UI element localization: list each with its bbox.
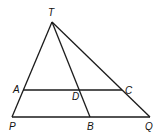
point-label-C: C: [125, 85, 133, 96]
point-label-B: B: [87, 121, 94, 132]
segment-TB: [52, 22, 90, 117]
point-label-D: D: [72, 91, 79, 102]
segment-TP: [12, 22, 52, 117]
point-label-A: A: [12, 84, 20, 95]
point-label-T: T: [48, 7, 55, 18]
triangle-figure: TADCPBQ: [0, 0, 164, 133]
geometry-diagram: TADCPBQ T: [0, 0, 164, 133]
segment-TQ: [52, 22, 150, 117]
point-label-P: P: [9, 121, 16, 132]
point-label-Q: Q: [145, 121, 153, 132]
